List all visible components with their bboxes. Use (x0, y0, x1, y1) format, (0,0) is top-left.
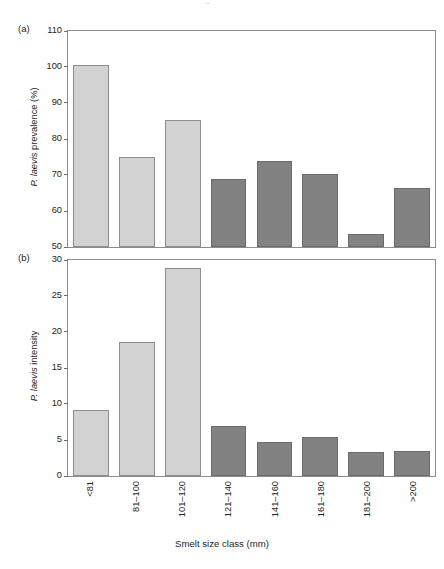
x-tick: 141–160 (252, 477, 298, 539)
bar (119, 157, 155, 247)
panel-b: (b) P. laevis intensity 302520151050 (0, 253, 444, 477)
y-tick-label: 20 (52, 325, 62, 338)
panel-b-y-axis-label-text: intensity (29, 331, 39, 368)
bar (348, 234, 384, 247)
y-tick-label: 0 (57, 469, 62, 482)
panel-a-y-axis-label-text: prevalence (%) (29, 87, 39, 152)
x-tick-label: 81–100 (136, 450, 146, 481)
x-tick: 101–120 (159, 477, 205, 539)
x-tick: 81–100 (113, 477, 159, 539)
x-tick-label: 181–200 (367, 445, 377, 481)
y-tick-label: 70 (52, 168, 62, 181)
y-tick-label: 60 (52, 204, 62, 217)
panel-b-plot-area: 302520151050 (67, 259, 436, 477)
y-tick-label: 90 (52, 96, 62, 109)
figure-root: ·· (a) P. laevis prevalence (%) 11010090… (0, 0, 444, 569)
x-tick: 121–140 (205, 477, 251, 539)
panel-a-y-axis-label: P. laevis prevalence (%) (28, 30, 41, 244)
bar (257, 161, 293, 247)
panel-a-y-axis-label-species: P. laevis (29, 153, 39, 187)
y-tick-label: 25 (52, 289, 62, 302)
x-tick-label: 141–160 (275, 445, 285, 481)
x-tick-label: 161–180 (321, 445, 331, 481)
panel-a-plot-area: 1101009080706050 (67, 30, 436, 248)
bar (165, 120, 201, 247)
y-tick-label: 5 (57, 433, 62, 446)
bar (302, 174, 338, 247)
x-axis-title: Smelt size class (mm) (0, 537, 444, 551)
x-tick: <81 (67, 477, 113, 539)
x-tick-label: >200 (413, 460, 423, 481)
panel-b-bars (68, 260, 435, 476)
x-tick-label: 101–120 (182, 445, 192, 481)
x-tick-label: <81 (90, 465, 100, 481)
y-tick-label: 80 (52, 132, 62, 145)
y-tick-label: 50 (52, 240, 62, 253)
y-tick-label: 110 (47, 24, 62, 37)
x-tick: 181–200 (344, 477, 390, 539)
bar (394, 188, 430, 247)
y-tick-label: 10 (52, 397, 62, 410)
y-tick-label: 15 (52, 361, 62, 374)
panel-b-y-axis-label-species: P. laevis (29, 367, 39, 401)
top-cutoff-artifact: ·· (205, 0, 219, 7)
x-tick: >200 (390, 477, 436, 539)
y-tick-label: 100 (46, 60, 62, 73)
x-tick-label: 121–140 (228, 445, 238, 481)
x-axis-tick-labels: <8181–100101–120121–140141–160161–180181… (67, 477, 436, 539)
panel-b-y-axis-label: P. laevis intensity (28, 259, 41, 473)
y-tick-label: 30 (52, 253, 62, 266)
panel-a: (a) P. laevis prevalence (%) 11010090807… (0, 24, 444, 248)
bar (211, 179, 247, 247)
bar (73, 65, 109, 247)
panel-a-bars (68, 31, 435, 247)
x-tick: 161–180 (298, 477, 344, 539)
